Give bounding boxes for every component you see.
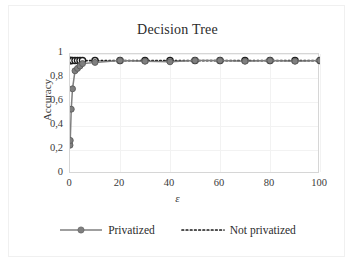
series-line-privatized (70, 61, 320, 146)
gridline-vertical (320, 54, 321, 172)
x-axis-tick-label: 80 (254, 177, 284, 188)
x-axis-tick-label: 20 (104, 177, 134, 188)
plot-area (69, 53, 319, 173)
legend-item-not-privatized[interactable]: Not privatized (181, 224, 296, 236)
y-axis-tick-label: 0 (37, 166, 63, 177)
y-axis-tick-label: 0,2 (37, 142, 63, 153)
x-axis-title: ε (9, 192, 346, 204)
data-point (242, 58, 248, 64)
data-point (70, 106, 74, 112)
legend-item-privatized[interactable]: Privatized (59, 224, 155, 236)
y-axis-tick-label: 0,6 (37, 94, 63, 105)
data-point (70, 137, 73, 143)
chart-legend: Privatized Not privatized (9, 224, 346, 236)
series-markers-privatized (70, 58, 320, 149)
y-axis-tick-label: 1 (37, 46, 63, 57)
x-axis-tick-label: 100 (304, 177, 334, 188)
x-axis-tick-label: 40 (154, 177, 184, 188)
data-point (267, 58, 273, 64)
data-point (292, 58, 298, 64)
chart-title: Decision Tree (9, 22, 346, 38)
data-point (70, 86, 76, 92)
data-point (92, 59, 98, 65)
legend-label-privatized: Privatized (108, 224, 155, 236)
chart-container: Decision Tree Accuracy 00,20,40,60,81 02… (8, 5, 345, 257)
legend-key-dotted-line-icon (181, 224, 225, 236)
y-axis-tick-label: 0,4 (37, 118, 63, 129)
y-axis-tick-label: 0,8 (37, 70, 63, 81)
data-point (167, 59, 173, 65)
data-point (217, 58, 223, 64)
legend-key-solid-line-icon (59, 224, 103, 236)
x-axis-tick-label: 60 (204, 177, 234, 188)
data-point (142, 58, 148, 64)
data-point (117, 58, 123, 64)
data-point (80, 61, 86, 67)
data-point (192, 58, 198, 64)
plot-series-svg (70, 54, 320, 174)
legend-label-not-privatized: Not privatized (230, 224, 296, 236)
data-point (317, 58, 320, 64)
x-axis-tick-label: 0 (54, 177, 84, 188)
